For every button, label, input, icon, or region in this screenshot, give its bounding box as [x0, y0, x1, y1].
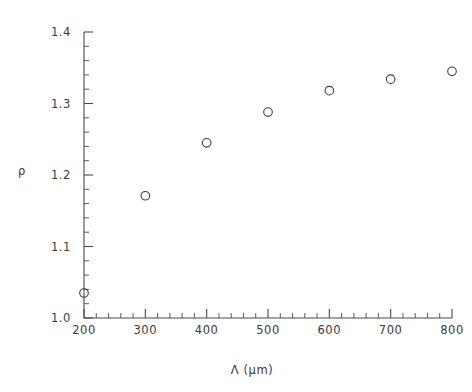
scatter-plot: 200300400500600700800 1.01.11.21.31.4 Λ … — [0, 0, 472, 392]
data-markers — [80, 67, 457, 297]
data-point-marker — [448, 67, 457, 76]
x-tick-label: 800 — [440, 323, 464, 337]
x-axis-ticks — [84, 309, 452, 318]
y-tick-label: 1.1 — [51, 240, 71, 254]
y-tick-label: 1.4 — [51, 25, 71, 39]
y-axis-ticks — [84, 32, 93, 318]
data-point-marker — [325, 86, 334, 95]
axes-lines — [84, 32, 452, 318]
data-point-marker — [264, 108, 273, 117]
x-tick-label: 200 — [72, 323, 96, 337]
x-tick-label: 300 — [133, 323, 157, 337]
y-tick-label: 1.0 — [51, 311, 71, 325]
y-tick-label: 1.2 — [51, 168, 71, 182]
x-tick-label: 500 — [256, 323, 280, 337]
y-axis-title: ρ — [18, 164, 26, 178]
x-tick-label: 400 — [195, 323, 219, 337]
chart-figure: 200300400500600700800 1.01.11.21.31.4 Λ … — [0, 0, 472, 392]
x-axis-title: Λ (μm) — [231, 363, 274, 377]
y-tick-label: 1.3 — [51, 97, 71, 111]
data-point-marker — [141, 191, 150, 200]
y-axis-tick-labels: 1.01.11.21.31.4 — [51, 25, 71, 325]
x-tick-label: 600 — [317, 323, 341, 337]
data-point-marker — [202, 139, 211, 148]
x-axis-tick-labels: 200300400500600700800 — [72, 323, 464, 337]
x-tick-label: 700 — [379, 323, 403, 337]
data-point-marker — [386, 75, 395, 84]
